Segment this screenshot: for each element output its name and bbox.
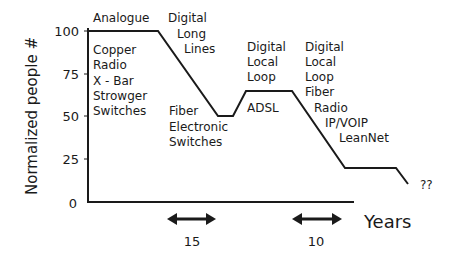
svg-text:X - Bar: X - Bar [93,74,134,88]
svg-text:Copper: Copper [93,43,136,57]
x-axis-label: Years [363,211,412,232]
annotation-digital-long-tech: Fiber Electronic Switches [169,104,228,149]
annotation-digital-long-lines: Digital Long Lines [168,11,215,56]
svg-text:Digital: Digital [305,40,344,54]
svg-text:Long: Long [177,27,206,41]
svg-text:Strowger: Strowger [93,89,147,103]
svg-text:Loop: Loop [247,70,276,84]
y-tick-label: 50 [62,109,79,124]
annotation-digital-local-2-tech: Fiber Radio IP/VOIP LeanNet [305,85,389,145]
annotation-digital-local-loop-2: Digital Local Loop [305,40,344,84]
annotation-analogue: Analogue [93,11,149,25]
svg-text:Fiber: Fiber [305,85,334,99]
svg-text:Switches: Switches [93,104,146,118]
svg-text:Local: Local [305,55,336,69]
svg-text:Fiber: Fiber [169,104,198,118]
y-tick-label: 0 [69,196,77,211]
svg-text:Electronic: Electronic [169,120,228,134]
svg-text:Digital: Digital [168,11,207,25]
span-label-15: 15 [184,234,201,249]
annotation-analogue-tech: Copper Radio X - Bar Strowger Switches [93,43,147,118]
svg-text:Switches: Switches [169,135,222,149]
span-arrow-15 [167,213,216,225]
y-tick-label: 25 [62,152,79,167]
svg-text:IP/VOIP: IP/VOIP [325,116,368,130]
svg-text:Loop: Loop [305,70,334,84]
span-label-10: 10 [308,234,325,249]
annotation-future: ?? [420,178,433,192]
annotation-adsl: ADSL [247,101,279,115]
span-arrow-10 [292,213,342,225]
svg-text:Local: Local [247,55,278,69]
svg-text:Lines: Lines [184,42,215,56]
svg-text:Radio: Radio [314,101,348,115]
annotation-digital-local-loop-1: Digital Local Loop [247,40,286,84]
y-tick-label: 75 [62,67,79,82]
chart: 100 75 50 25 0 Normalized people # Analo… [0,0,456,262]
svg-text:Radio: Radio [93,58,127,72]
svg-text:Digital: Digital [247,40,286,54]
svg-text:LeanNet: LeanNet [339,131,389,145]
y-tick-label: 100 [54,24,79,39]
y-axis-label: Normalized people # [23,37,41,195]
